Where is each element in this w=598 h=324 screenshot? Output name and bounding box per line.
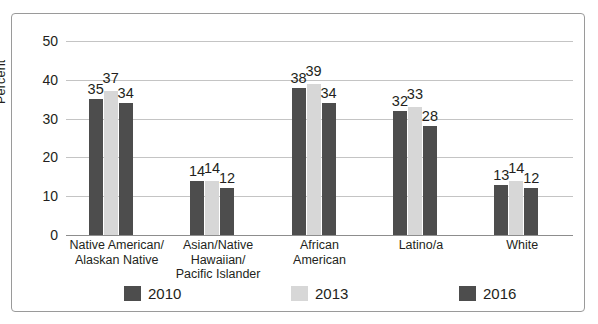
y-tick-label-50: 50 [42,34,58,48]
y-tick-label-0: 0 [50,228,58,242]
legend-label: 2013 [315,285,348,302]
bar [509,181,523,235]
x-axis-category-label: AfricanAmerican [269,238,370,267]
category-label-line: American [269,253,370,268]
bar-value-label: 33 [404,87,426,102]
bar [89,99,103,235]
y-tick-label-10: 10 [42,189,58,203]
category-label-line: African [269,238,370,253]
y-axis-ticks: 01020304050 [20,41,58,235]
bar [205,181,219,235]
y-tick-label-20: 20 [42,150,58,164]
bar [307,84,321,235]
bar [190,181,204,235]
legend-item-2013[interactable]: 2013 [291,285,348,302]
x-axis-category-label: Latino/a [370,238,471,253]
legend-swatch-icon [124,286,141,301]
bar [322,103,336,235]
gridline-0 [66,235,573,236]
bar [408,107,422,235]
category-label-line: White [472,238,573,253]
category-label-line: Asian/Native [167,238,268,253]
category-label-line: Alaskan Native [66,253,167,268]
category-label-line: Native American/ [66,238,167,253]
bar-value-label: 28 [419,109,441,124]
category-label-line: Hawaiian/ [167,253,268,268]
chart-root: Percent 01020304050 35373414141238393432… [0,0,598,324]
bar-value-label: 34 [115,86,137,101]
legend-swatch-icon [291,286,308,301]
legend-item-2010[interactable]: 2010 [124,285,181,302]
bar [220,188,234,235]
bar [292,88,306,235]
plot-area: 353734141412383934323328131412 [66,41,573,235]
y-tick-label-30: 30 [42,112,58,126]
bar [393,111,407,235]
legend-item-2016[interactable]: 2016 [459,285,516,302]
bar [524,188,538,235]
bar-value-label: 34 [318,86,340,101]
category-label-line: Pacific Islander [167,267,268,282]
bar-groups: 353734141412383934323328131412 [66,41,573,235]
category-label-line: Latino/a [370,238,471,253]
bar-value-label: 12 [520,171,542,186]
bar [494,185,508,235]
legend-label: 2010 [148,285,181,302]
bar-value-label: 39 [303,64,325,79]
bar [423,126,437,235]
legend-label: 2016 [483,285,516,302]
x-axis-category-labels: Native American/Alaskan NativeAsian/Nati… [66,238,573,284]
legend-swatch-icon [459,286,476,301]
x-axis-category-label: Asian/NativeHawaiian/Pacific Islander [167,238,268,282]
y-tick-label-40: 40 [42,73,58,87]
bar [104,91,118,235]
bar [119,103,133,235]
x-axis-category-label: Native American/Alaskan Native [66,238,167,267]
y-axis-title: Percent [0,60,8,104]
bar-value-label: 12 [216,171,238,186]
x-axis-category-label: White [472,238,573,253]
chart-legend: 201020132016 [11,285,585,307]
